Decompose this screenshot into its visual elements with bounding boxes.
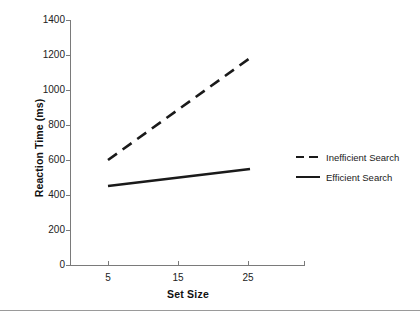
- x-axis-title: Set Size: [70, 288, 306, 300]
- y-tick-marks: [66, 21, 70, 266]
- dashed-line-swatch-icon: [296, 151, 322, 163]
- footer-divider: [0, 310, 420, 311]
- legend-item-efficient-search: Efficient Search: [296, 167, 420, 187]
- chart-figure: Reaction Time (ms) 1400 1200 1000 800 60…: [0, 0, 420, 319]
- chart-legend: Inefficient Search Efficient Search: [296, 147, 420, 187]
- series-line-efficient-search: [108, 169, 250, 186]
- legend-label: Inefficient Search: [326, 152, 399, 163]
- legend-item-inefficient-search: Inefficient Search: [296, 147, 420, 167]
- legend-label: Efficient Search: [326, 172, 392, 183]
- solid-line-swatch-icon: [296, 171, 322, 183]
- series-line-inefficient-search: [108, 58, 250, 160]
